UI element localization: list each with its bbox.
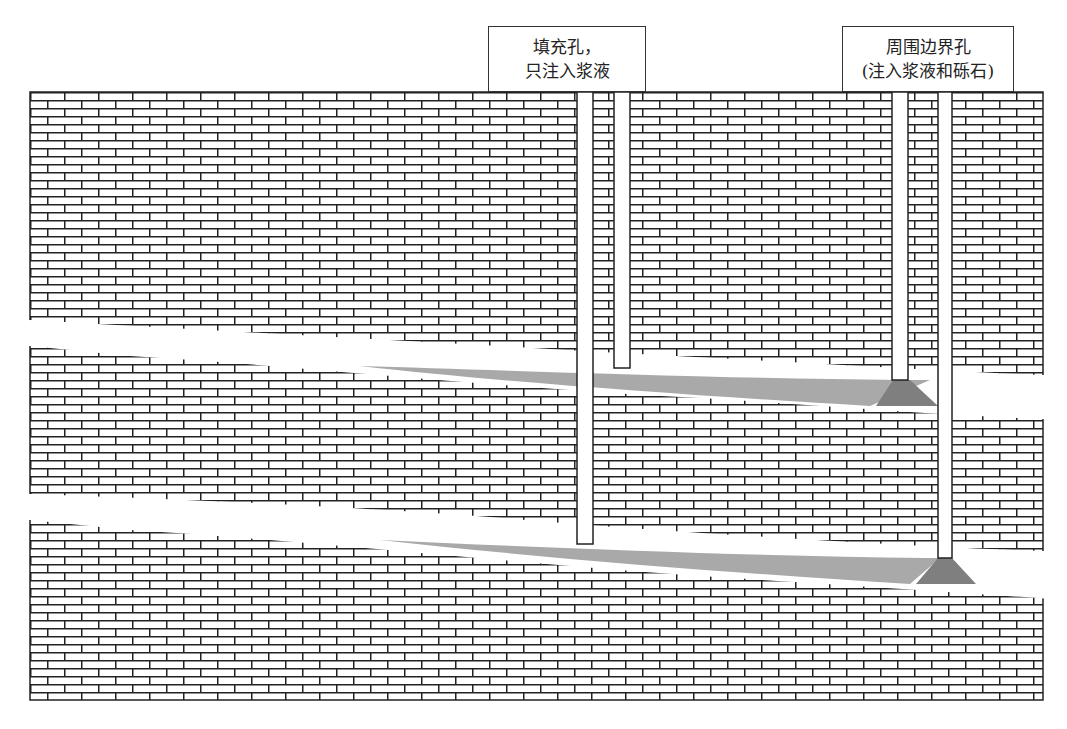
perimeter-hole-left [892, 92, 908, 380]
perimeter-hole-label-line2: (注入浆液和砾石) [843, 59, 1013, 83]
grouting-diagram [0, 0, 1067, 729]
fill-hole-left [577, 92, 593, 544]
fill-hole-label-line2: 只注入浆液 [489, 59, 645, 83]
perimeter-hole-right [938, 92, 952, 558]
fill-hole-label-line1: 填充孔， [489, 35, 645, 59]
perimeter-hole-label-line1: 周围边界孔 [843, 35, 1013, 59]
fill-hole-right [614, 92, 630, 368]
fill-hole-label: 填充孔， 只注入浆液 [488, 26, 646, 92]
perimeter-hole-label: 周围边界孔 (注入浆液和砾石) [842, 26, 1014, 92]
